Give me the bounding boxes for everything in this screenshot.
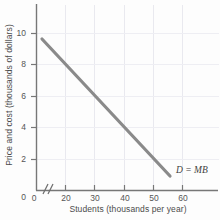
x-tick-label-40: 40: [115, 193, 135, 203]
demand-curve-chart: Price and cost (thousands of dollars) St…: [0, 0, 220, 220]
y-tick-label-10: 10: [10, 28, 26, 38]
gridlines-vertical: [66, 5, 183, 190]
x-axis-title: Students (thousands per year): [36, 204, 220, 214]
y-tick-label-8: 8: [10, 59, 26, 69]
demand-curve-line: [42, 39, 170, 176]
curve-label-d-equals-mb: D = MB: [176, 165, 208, 175]
x-tick-label-50: 50: [144, 193, 164, 203]
x-tick-label-30: 30: [85, 193, 105, 203]
gridlines-horizontal: [36, 34, 219, 160]
chart-canvas: [0, 0, 220, 220]
axis-break-mark: [43, 184, 53, 194]
x-tick-label-60: 60: [173, 193, 193, 203]
x-tick-label-20: 20: [56, 193, 76, 203]
x-tick-label-0: 0: [24, 193, 44, 203]
y-tick-label-6: 6: [10, 91, 26, 101]
y-tick-label-4: 4: [10, 122, 26, 132]
y-tick-label-2: 2: [10, 154, 26, 164]
